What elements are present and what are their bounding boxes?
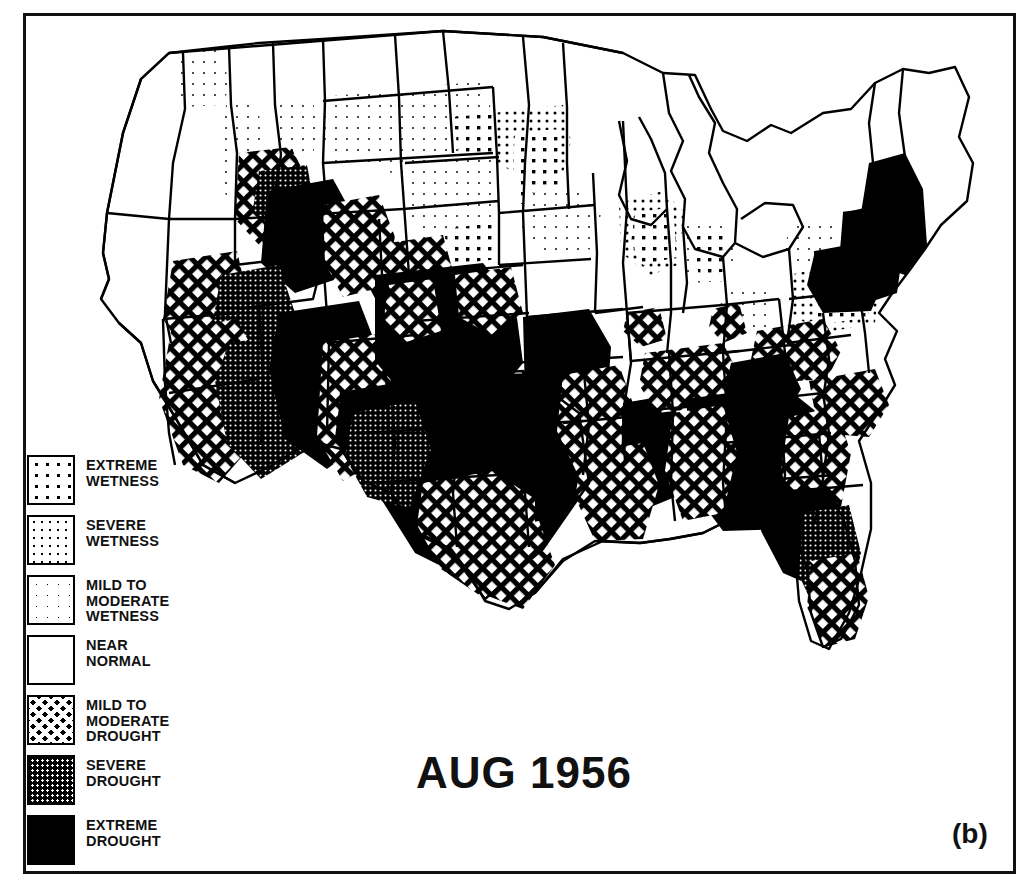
legend-swatch-extreme-wetness-icon xyxy=(27,455,75,505)
legend-label-near-normal: NEAR NORMAL xyxy=(86,635,151,669)
legend-label-extreme-drought: EXTREME DROUGHT xyxy=(86,815,161,849)
legend-label-mild-moderate-drought: MILD TO MODERATE DROUGHT xyxy=(86,695,170,745)
legend-item-extreme-drought: EXTREME DROUGHT xyxy=(27,815,217,871)
legend-item-mild-moderate-wetness: MILD TO MODERATE WETNESS xyxy=(27,575,217,631)
legend-item-mild-moderate-drought: MILD TO MODERATE DROUGHT xyxy=(27,695,217,751)
legend-swatch-near-normal-icon xyxy=(27,635,75,685)
region-mild-wetness xyxy=(521,189,601,253)
legend-swatch-mild-moderate-drought-icon xyxy=(27,695,75,745)
region-mild-wetness xyxy=(173,49,229,107)
map-title: AUG 1956 xyxy=(416,748,632,798)
legend-item-extreme-wetness: EXTREME WETNESS xyxy=(27,455,217,511)
legend-swatch-severe-wetness-icon xyxy=(27,515,75,565)
map-fills xyxy=(159,49,927,647)
panel-label: (b) xyxy=(952,818,988,850)
drought-map-figure: EXTREME WETNESS SEVERE WETNESS MILD TO M… xyxy=(0,0,1033,892)
legend-item-near-normal: NEAR NORMAL xyxy=(27,635,217,691)
legend-swatch-mild-moderate-wetness-icon xyxy=(27,575,75,625)
legend-item-severe-drought: SEVERE DROUGHT xyxy=(27,755,217,811)
legend-swatch-extreme-drought-icon xyxy=(27,815,75,865)
legend-label-mild-moderate-wetness: MILD TO MODERATE WETNESS xyxy=(86,575,170,625)
legend: EXTREME WETNESS SEVERE WETNESS MILD TO M… xyxy=(27,455,217,875)
legend-item-severe-wetness: SEVERE WETNESS xyxy=(27,515,217,571)
legend-swatch-severe-drought-icon xyxy=(27,755,75,805)
legend-label-severe-drought: SEVERE DROUGHT xyxy=(86,755,161,789)
legend-label-severe-wetness: SEVERE WETNESS xyxy=(86,515,159,549)
region-mild-moderate-drought xyxy=(575,443,659,541)
legend-label-extreme-wetness: EXTREME WETNESS xyxy=(86,455,159,489)
